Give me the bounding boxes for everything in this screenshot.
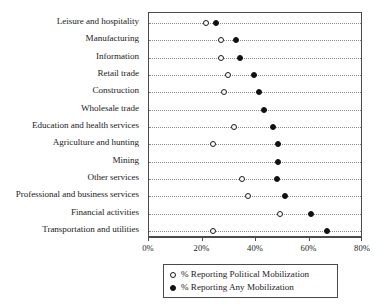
data-point-political — [225, 72, 231, 78]
data-point-any — [308, 211, 314, 217]
y-axis-label: Wholesale trade — [0, 103, 139, 113]
data-point-political — [210, 228, 216, 234]
y-axis-label: Financial activities — [0, 207, 139, 217]
y-axis-label: Agriculture and hunting — [0, 137, 139, 147]
x-axis-tick-label: 0% — [142, 243, 153, 253]
data-point-any — [275, 159, 281, 165]
data-point-political — [245, 193, 251, 199]
data-point-political — [231, 124, 237, 130]
data-point-any — [274, 176, 280, 182]
dot-plot-chart: Leisure and hospitalityManufacturingInfo… — [0, 0, 375, 308]
data-point-any — [261, 107, 267, 113]
x-axis-tick — [309, 237, 310, 241]
data-point-political — [239, 176, 245, 182]
y-axis-label: Professional and business services — [0, 189, 139, 199]
open-circle-icon — [170, 272, 176, 278]
x-axis-tick-label: 40% — [247, 243, 263, 253]
gridline — [149, 40, 361, 41]
y-axis-label: Transportation and utilities — [0, 224, 139, 234]
gridline — [149, 23, 361, 24]
gridline — [149, 110, 361, 111]
data-point-political — [277, 211, 283, 217]
x-axis-tick-label: 20% — [194, 243, 210, 253]
data-point-political — [218, 37, 224, 43]
x-axis-tick-label: 60% — [301, 243, 317, 253]
data-point-any — [275, 141, 281, 147]
data-point-political — [221, 89, 227, 95]
data-point-any — [233, 37, 239, 43]
data-point-any — [282, 193, 288, 199]
gridline — [149, 58, 361, 59]
data-point-political — [218, 55, 224, 61]
y-axis-label: Education and health services — [0, 120, 139, 130]
data-point-political — [210, 141, 216, 147]
data-point-any — [213, 20, 219, 26]
x-axis-tick — [148, 237, 149, 241]
y-axis-label: Retail trade — [0, 68, 139, 78]
filled-circle-icon — [170, 285, 176, 291]
legend-item[interactable]: % Reporting Any Mobilization — [170, 281, 331, 294]
y-axis-category-labels: Leisure and hospitalityManufacturingInfo… — [0, 12, 144, 228]
x-axis-tick — [202, 237, 203, 241]
y-axis-label: Information — [0, 51, 139, 61]
data-point-any — [237, 55, 243, 61]
gridline — [149, 127, 361, 128]
y-axis-label: Mining — [0, 155, 139, 165]
x-axis-tick — [361, 237, 362, 241]
plot-area — [148, 12, 362, 237]
x-axis-tick — [255, 237, 256, 241]
legend-label: % Reporting Any Mobilization — [181, 282, 294, 293]
gridline — [149, 179, 361, 180]
x-axis-tick-label: 80% — [354, 243, 370, 253]
gridline — [149, 196, 361, 197]
x-axis: 0%20%40%60%80% — [148, 237, 362, 257]
legend-item[interactable]: % Reporting Political Mobilization — [170, 268, 331, 281]
y-axis-label: Leisure and hospitality — [0, 16, 139, 26]
data-point-any — [270, 124, 276, 130]
data-point-any — [324, 228, 330, 234]
data-point-any — [251, 72, 257, 78]
y-axis-label: Manufacturing — [0, 33, 139, 43]
gridline — [149, 144, 361, 145]
y-axis-label: Construction — [0, 85, 139, 95]
y-axis-label: Other services — [0, 172, 139, 182]
gridline — [149, 92, 361, 93]
gridline — [149, 162, 361, 163]
data-point-any — [256, 89, 262, 95]
data-point-political — [203, 20, 209, 26]
chart-legend: % Reporting Political Mobilization% Repo… — [163, 264, 338, 298]
legend-label: % Reporting Political Mobilization — [181, 269, 309, 280]
gridline — [149, 214, 361, 215]
